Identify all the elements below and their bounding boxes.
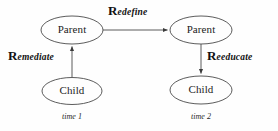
edge-remediate-label-capital: R <box>8 48 18 63</box>
edge-redefine-label-capital: R <box>108 3 118 18</box>
node-parent-time1-label: Parent <box>42 23 102 35</box>
edge-reeducate-label: Reeducate <box>207 48 252 64</box>
time-label-1: time 1 <box>52 112 92 121</box>
time-label-2: time 2 <box>181 112 221 121</box>
diagram-graphics <box>0 0 278 131</box>
node-child-time1-label: Child <box>42 84 102 96</box>
diagram-canvas: Parent Child Parent Child Remediate Rede… <box>0 0 278 131</box>
edge-reeducate-label-rest: eeducate <box>217 52 253 62</box>
edge-reeducate-label-capital: R <box>207 48 217 63</box>
node-child-time2-label: Child <box>171 83 231 95</box>
edge-remediate-label-rest: emediate <box>18 52 54 62</box>
edge-remediate-label: Remediate <box>8 48 54 64</box>
edge-redefine-label: Redefine <box>108 3 147 19</box>
edge-redefine-label-rest: edefine <box>118 7 148 17</box>
node-parent-time2-label: Parent <box>171 23 231 35</box>
